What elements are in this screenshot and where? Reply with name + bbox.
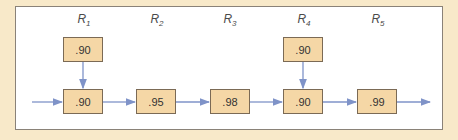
arrows-layer xyxy=(0,0,458,140)
